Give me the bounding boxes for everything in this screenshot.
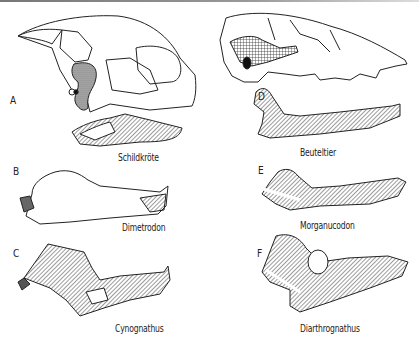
panel-b-letter: B xyxy=(13,166,19,177)
panel-c-jaw xyxy=(18,244,170,316)
panel-f-caption: Diarthrognathus xyxy=(300,323,360,334)
panel-e-jaw xyxy=(260,169,406,210)
panel-e-letter: E xyxy=(258,165,264,176)
panel-b-jaw xyxy=(20,171,168,224)
panel-d-skull xyxy=(220,13,407,138)
panel-b-caption: Dimetrodon xyxy=(122,222,165,233)
panel-c-letter: C xyxy=(13,248,19,259)
panel-c-caption: Cynognathus xyxy=(115,323,164,334)
panel-f-letter: F xyxy=(257,248,262,259)
panel-a-caption: Schildkröte xyxy=(118,152,159,163)
panel-e-caption: Morganucodon xyxy=(300,220,355,231)
panel-f-jaw xyxy=(262,235,408,312)
panel-a-skull xyxy=(18,16,196,146)
panel-d-letter: D xyxy=(258,91,265,102)
drawing xyxy=(0,0,419,342)
panel-a-letter: A xyxy=(10,95,16,106)
figure: A Schildkröte B Dimetrodon C Cynognathus… xyxy=(0,0,419,342)
panel-d-caption: Beuteltier xyxy=(300,147,336,158)
